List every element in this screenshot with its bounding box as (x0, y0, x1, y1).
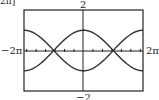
graph-canvas (0, 0, 159, 100)
